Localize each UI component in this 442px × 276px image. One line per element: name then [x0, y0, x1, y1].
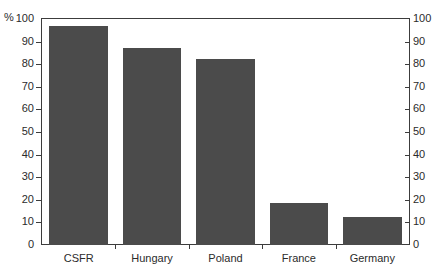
x-tick	[262, 245, 263, 249]
bar-csfr	[49, 26, 108, 245]
y-tick-left	[36, 222, 41, 223]
y-tick-label-right: 10	[413, 216, 425, 227]
x-category-label-hungary: Hungary	[115, 252, 188, 264]
y-tick-label-right: 100	[413, 13, 431, 24]
y-tick-label-right: 50	[413, 126, 425, 137]
percent-symbol: %	[4, 12, 14, 23]
y-tick-label-left: 30	[22, 171, 34, 182]
x-tick	[115, 245, 116, 249]
y-tick-label-left: 0	[28, 239, 34, 250]
y-tick-label-left: 80	[22, 58, 34, 69]
y-tick-label-right: 40	[413, 149, 425, 160]
y-tick-left	[36, 200, 41, 201]
y-tick-label-right: 30	[413, 171, 425, 182]
bar-chart: % 0102030405060708090100 010203040506070…	[0, 0, 442, 276]
y-tick-left	[36, 87, 41, 88]
y-tick-label-right: 60	[413, 103, 425, 114]
x-tick	[336, 245, 337, 249]
bar-poland	[196, 59, 255, 245]
x-category-label-germany: Germany	[336, 252, 409, 264]
y-tick-left	[36, 177, 41, 178]
y-tick-label-right: 70	[413, 81, 425, 92]
x-category-label-csfr: CSFR	[42, 252, 115, 264]
y-tick-label-left: 10	[22, 216, 34, 227]
y-tick-label-right: 90	[413, 36, 425, 47]
y-tick-left	[36, 42, 41, 43]
bar-hungary	[123, 48, 182, 245]
x-category-label-poland: Poland	[189, 252, 262, 264]
y-tick-label-right: 0	[413, 239, 419, 250]
y-tick-label-left: 20	[22, 194, 34, 205]
x-category-label-france: France	[262, 252, 335, 264]
y-tick-left	[36, 64, 41, 65]
y-tick-label-left: 50	[22, 126, 34, 137]
y-tick-label-left: 100	[16, 13, 34, 24]
y-tick-label-right: 80	[413, 58, 425, 69]
y-tick-label-left: 60	[22, 103, 34, 114]
bar-germany	[343, 217, 402, 245]
y-tick-label-left: 90	[22, 36, 34, 47]
y-tick-label-right: 20	[413, 194, 425, 205]
bar-france	[270, 203, 329, 245]
bars-layer	[42, 19, 409, 245]
y-tick-left	[36, 109, 41, 110]
y-tick-label-left: 40	[22, 149, 34, 160]
y-tick-left	[36, 155, 41, 156]
y-tick-left	[36, 132, 41, 133]
y-tick-label-left: 70	[22, 81, 34, 92]
x-tick	[189, 245, 190, 249]
